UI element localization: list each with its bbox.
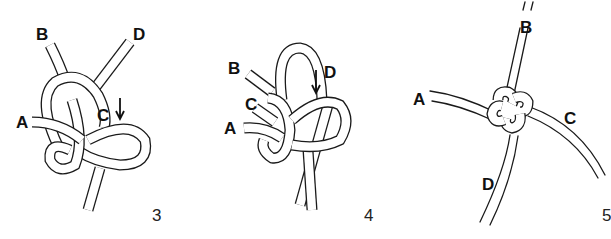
strand-label-a: A	[413, 91, 425, 108]
step-5-knot-illustration	[400, 0, 609, 239]
crown-knot	[492, 92, 528, 128]
strand-label-d: D	[482, 176, 494, 193]
strand-label-a: A	[224, 120, 236, 137]
step-number: 3	[152, 207, 161, 224]
step-5-panel: B A C D 5	[400, 0, 609, 239]
step-3-panel: B D A C 3	[0, 0, 200, 239]
strand-label-c: C	[564, 110, 576, 127]
down-arrow-icon	[116, 98, 124, 119]
strand-label-d: D	[324, 64, 336, 81]
strand-label-b: B	[228, 60, 240, 77]
strand-label-a: A	[16, 114, 28, 131]
strand-label-d: D	[133, 26, 145, 43]
strand-label-c: C	[245, 96, 257, 113]
strand-label-c: C	[97, 107, 109, 124]
step-4-panel: B D C A 4	[200, 0, 400, 239]
step-number: 5	[602, 207, 611, 224]
strand-label-b: B	[36, 26, 48, 43]
step-number: 4	[364, 207, 373, 224]
strand-label-b: B	[520, 19, 532, 36]
